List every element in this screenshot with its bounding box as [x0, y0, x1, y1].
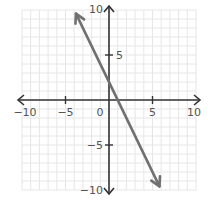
x-tick-label: 0	[97, 106, 104, 119]
y-tick-label: 5	[116, 49, 123, 62]
y-tick-label: −5	[87, 139, 103, 152]
y-tick-label: 10	[89, 3, 103, 16]
x-tick-label: 10	[187, 106, 201, 119]
axes	[18, 6, 200, 194]
x-tick-label: −10	[13, 106, 36, 119]
x-tick-label: 5	[149, 106, 156, 119]
y-tick-label: −10	[80, 184, 103, 197]
x-tick-label: −5	[57, 106, 73, 119]
coordinate-plane: −10−50510−10−5510	[0, 0, 208, 206]
